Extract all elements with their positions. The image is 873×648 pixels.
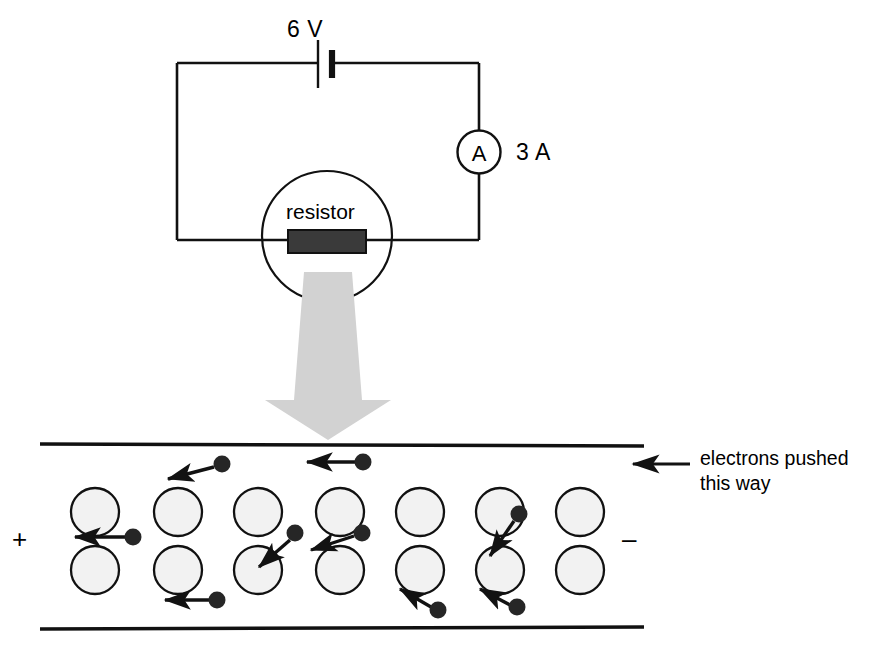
resistor-text-label: resistor [286,200,355,225]
positive-ion [556,488,604,536]
electrons-pushed-caption: electrons pushedthis way [700,446,849,495]
ammeter-reading-label: 3 A [516,139,551,166]
ammeter-icon: A [458,131,501,174]
caption-line-2: this way [700,472,770,494]
electron [511,506,528,523]
conductor-top-wall [40,444,644,446]
battery-cell-icon [318,40,332,88]
physics-diagram: A [0,0,873,648]
positive-ion [396,546,444,594]
electron [125,529,142,546]
positive-ion [316,546,364,594]
negative-terminal-sign: – [622,524,636,555]
electron [287,525,304,542]
electron [355,454,372,471]
positive-ion [154,546,202,594]
electron-motion-group [75,454,528,619]
electron [214,456,231,473]
conductor-bottom-wall [40,627,644,629]
positive-ion [71,546,119,594]
zoom-arrow-shape [265,272,391,440]
positive-ion [154,488,202,536]
electron-arrow [168,467,214,479]
caption-line-1: electrons pushed [700,447,849,469]
ammeter-symbol: A [472,141,487,166]
electron [430,602,447,619]
electron [209,592,226,609]
electron [509,599,526,616]
positive-terminal-sign: + [12,524,27,555]
positive-ion [476,546,524,594]
magnify-down-arrow-icon [265,272,391,440]
battery-voltage-label: 6 V [287,16,323,43]
positive-ion [396,488,444,536]
diagram-canvas: A [0,0,873,648]
positive-ion [71,488,119,536]
positive-ion [556,546,604,594]
positive-ion [234,488,282,536]
electron [354,525,371,542]
resistor-body [288,230,366,253]
